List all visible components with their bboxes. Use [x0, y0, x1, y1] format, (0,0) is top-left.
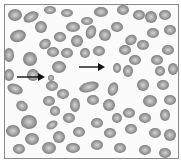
micrograph-frame [4, 4, 179, 159]
arrow-left-icon [5, 5, 178, 158]
